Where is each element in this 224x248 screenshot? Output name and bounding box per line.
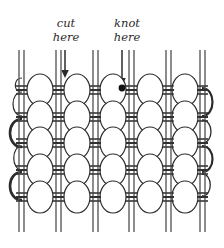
knot-loop bbox=[27, 181, 53, 213]
knot-loop bbox=[64, 181, 90, 213]
knot-label-line1: knot bbox=[114, 16, 140, 30]
knot-loop bbox=[137, 181, 163, 213]
knot-marker-dot bbox=[119, 85, 126, 92]
edge-loop bbox=[202, 88, 213, 116]
weave-canvas: cut here knot here bbox=[0, 0, 224, 248]
annotation-cut-here: cut here bbox=[53, 16, 80, 44]
cut-here-arrow-icon bbox=[61, 50, 69, 78]
knot-loop bbox=[172, 181, 198, 213]
annotation-knot-here: knot here bbox=[114, 16, 141, 44]
knot-loop bbox=[100, 181, 126, 213]
knot-label-line2: here bbox=[114, 30, 141, 44]
cut-label-line2: here bbox=[53, 30, 80, 44]
edge-loop bbox=[10, 172, 22, 200]
edge-loop bbox=[13, 92, 22, 116]
weave-diagram: cut here knot here bbox=[0, 0, 224, 248]
edge-loop bbox=[202, 146, 213, 172]
cut-label-line1: cut bbox=[57, 16, 76, 30]
